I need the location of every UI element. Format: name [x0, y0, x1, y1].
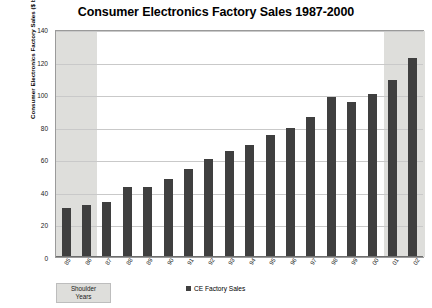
bar-slot [97, 31, 117, 257]
x-axis-line [56, 256, 423, 257]
x-axis-tick-label: 85 [63, 257, 72, 266]
bar [347, 102, 356, 257]
chart-title: Consumer Electronics Factory Sales 1987-… [0, 5, 432, 19]
bar [306, 117, 315, 257]
x-axis-tick-label: 99 [350, 257, 359, 266]
bar-slot [219, 31, 239, 257]
y-axis-tick-label: 140 [37, 27, 48, 34]
x-axis-tick-slot: 98 [322, 259, 343, 281]
x-axis-tick-label: 89 [145, 257, 154, 266]
x-axis-tick-slot: 97 [301, 259, 322, 281]
x-axis-tick-label: 86 [84, 257, 93, 266]
x-axis-tick-slot: 86 [76, 259, 97, 281]
x-axis-tick-label: 88 [125, 257, 134, 266]
y-axis-tick-label: 80 [41, 124, 48, 131]
x-axis-tick-slot: 89 [137, 259, 158, 281]
y-axis-tick-label: 100 [37, 92, 48, 99]
x-axis-tick-label: 94 [248, 257, 257, 266]
y-axis-tick-label: 20 [41, 222, 48, 229]
x-axis-tick-slot: 96 [281, 259, 302, 281]
bar [102, 202, 111, 257]
chart-legend: CE Factory Sales [186, 285, 245, 292]
shoulder-years-note: Shoulder Years [56, 283, 111, 303]
shoulder-years-line2: Years [76, 293, 92, 301]
shoulder-years-line1: Shoulder [71, 285, 96, 293]
x-axis-tick-label: 01 [391, 257, 400, 266]
x-axis-tick-slot: 85 [55, 259, 76, 281]
x-axis-tick-slot: 91 [178, 259, 199, 281]
x-axis-ticks: 858687888990919293949596979899000102 [55, 259, 424, 281]
y-axis-ticks: 020406080100120140 [0, 30, 52, 258]
chart-container: Consumer Electronics Factory Sales 1987-… [0, 0, 432, 308]
x-axis-tick-slot: 93 [219, 259, 240, 281]
x-axis-tick-slot: 00 [363, 259, 384, 281]
bar [327, 97, 336, 257]
legend-swatch-ce-factory-sales [186, 286, 191, 291]
bar-slot [301, 31, 321, 257]
bar-slot [76, 31, 96, 257]
bar-slot [321, 31, 341, 257]
bar-slot [362, 31, 382, 257]
bar-slot [382, 31, 402, 257]
bar [266, 135, 275, 257]
bar [408, 58, 417, 257]
bar-slot [240, 31, 260, 257]
y-axis-tick-label: 0 [44, 255, 48, 262]
y-axis-tick-label: 40 [41, 189, 48, 196]
y-axis-tick-label: 60 [41, 157, 48, 164]
bar [123, 187, 132, 257]
bar-slot [178, 31, 198, 257]
x-axis-tick-slot: 02 [404, 259, 425, 281]
bar [225, 151, 234, 257]
x-axis-tick-slot: 94 [240, 259, 261, 281]
bar-slot [56, 31, 76, 257]
x-axis-tick-slot: 01 [383, 259, 404, 281]
bar-series [56, 31, 423, 257]
x-axis-tick-slot: 87 [96, 259, 117, 281]
bar-slot [199, 31, 219, 257]
x-axis-tick-label: 96 [289, 257, 298, 266]
x-axis-tick-slot: 90 [158, 259, 179, 281]
bar-slot [280, 31, 300, 257]
bar [164, 179, 173, 257]
bar-slot [138, 31, 158, 257]
x-axis-tick-label: 98 [330, 257, 339, 266]
bar-slot [341, 31, 361, 257]
x-axis-tick-label: 02 [412, 257, 421, 266]
x-axis-tick-label: 87 [104, 257, 113, 266]
bar [184, 169, 193, 257]
x-axis-tick-slot: 88 [117, 259, 138, 281]
legend-label-ce-factory-sales: CE Factory Sales [194, 285, 245, 292]
y-axis-tick-label: 120 [37, 59, 48, 66]
x-axis-tick-label: 93 [227, 257, 236, 266]
bar-slot [260, 31, 280, 257]
x-axis-tick-label: 91 [186, 257, 195, 266]
x-axis-tick-slot: 95 [260, 259, 281, 281]
bar [245, 145, 254, 257]
bar [62, 208, 71, 257]
x-axis-tick-label: 90 [166, 257, 175, 266]
x-axis-tick-label: 92 [207, 257, 216, 266]
x-axis-tick-label: 95 [268, 257, 277, 266]
x-axis-tick-slot: 99 [342, 259, 363, 281]
bar [286, 128, 295, 257]
bar-slot [158, 31, 178, 257]
plot-area [55, 30, 424, 258]
x-axis-tick-label: 00 [371, 257, 380, 266]
bar [368, 94, 377, 257]
bar [82, 205, 91, 257]
x-axis-tick-slot: 92 [199, 259, 220, 281]
bar [143, 187, 152, 257]
bar-slot [403, 31, 423, 257]
bar-slot [117, 31, 137, 257]
bar [204, 159, 213, 257]
x-axis-tick-label: 97 [309, 257, 318, 266]
bar [388, 80, 397, 258]
